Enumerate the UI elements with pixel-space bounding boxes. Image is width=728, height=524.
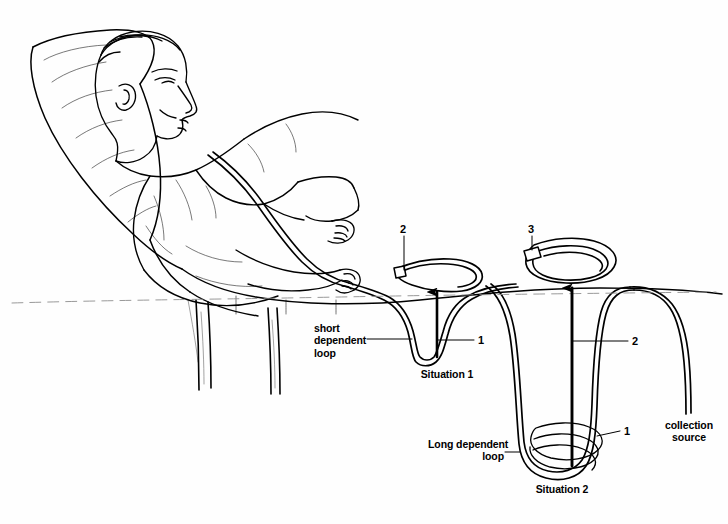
patient-forearm (236, 250, 342, 291)
figure-canvas: short dependent loop Situation 1 Long de… (0, 0, 728, 524)
long-dependent-loop-label: Long dependent loop (428, 438, 504, 463)
situation-2-caption: Situation 2 (519, 483, 605, 495)
callout-number-3-connector: 3 (528, 223, 534, 236)
chair-leg-shading (188, 300, 275, 388)
tubing-collection-source (630, 287, 691, 414)
collection-source-label: collection source (653, 419, 725, 444)
tubing-long-loop (486, 284, 634, 480)
patient-hand-upper (328, 220, 354, 243)
short-dependent-loop-label: short dependent loop (314, 322, 366, 359)
callout-number-1-situation-1: 1 (478, 334, 484, 347)
tubing-upper-return-loop (396, 259, 483, 292)
callout-number-2-connector: 2 (400, 223, 406, 236)
tubing-on-patient (208, 152, 349, 286)
illustration-svg (0, 0, 728, 524)
situation-1-caption: Situation 1 (404, 368, 490, 380)
chair-legs (196, 300, 280, 394)
callout-number-2-situation-2: 2 (632, 335, 638, 348)
patient-head (95, 31, 197, 162)
tubing-bottom-coil (530, 423, 602, 470)
tubing-top-coil (526, 238, 616, 283)
chair-cushion-shading (44, 45, 156, 222)
callout-number-1-situation-2: 1 (624, 425, 630, 438)
leader-lines (367, 236, 628, 452)
chair-backrest (31, 30, 182, 269)
